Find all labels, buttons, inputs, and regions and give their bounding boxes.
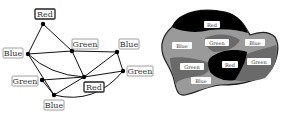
- graph-edge: [42, 80, 54, 95]
- graph-node: [52, 93, 56, 97]
- graph-edge: [84, 52, 117, 77]
- graph-edge: [84, 71, 123, 77]
- region-label: Green: [251, 59, 267, 65]
- region-label: Green: [209, 40, 225, 46]
- region-label: Blue: [176, 43, 187, 49]
- graph-edge: [72, 51, 117, 52]
- node-label: Red: [86, 83, 102, 92]
- node-label: Green: [73, 40, 98, 49]
- graph-edge: [117, 52, 123, 71]
- graph-edge: [28, 54, 54, 95]
- graph-edge: [28, 51, 72, 54]
- node-label: Green: [128, 67, 153, 76]
- node-label: Blue: [4, 49, 23, 58]
- node-label: Blue: [45, 101, 64, 110]
- graph-node: [26, 52, 30, 56]
- graph-edge: [43, 24, 72, 51]
- node-label: Green: [13, 77, 38, 86]
- graph-edge-curved: [28, 54, 84, 77]
- graph-node: [115, 50, 119, 54]
- region-label: Red: [207, 22, 218, 28]
- region-label: Red: [225, 62, 236, 68]
- region-label: Blue: [249, 40, 260, 46]
- graph: RedBlueGreenBlueGreenGreenRedBlue: [3, 9, 153, 110]
- graph-node: [82, 75, 86, 79]
- graph-edge: [42, 77, 84, 80]
- graph-node: [41, 22, 45, 26]
- graph-edge: [72, 51, 84, 77]
- region-label: Blue: [195, 78, 206, 84]
- graph-node: [40, 78, 44, 82]
- graph-edge: [28, 24, 43, 54]
- node-label: Red: [37, 10, 53, 19]
- graph-node: [121, 69, 125, 73]
- graph-edge: [54, 77, 84, 95]
- node-label: Blue: [120, 40, 139, 49]
- graph-node: [70, 49, 74, 53]
- region-label: Green: [184, 64, 200, 70]
- graph-coloring-diagram: RedBlueGreenBlueGreenGreenRedBlue RedBlu…: [0, 0, 283, 113]
- map: RedBlueGreenBlueRedGreenGreenBlue: [162, 10, 278, 95]
